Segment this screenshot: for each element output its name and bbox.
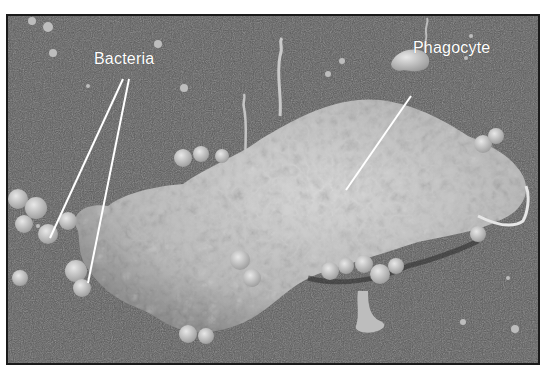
micrograph-frame: Bacteria Phagocyte — [6, 14, 540, 365]
bacteria-label: Bacteria — [94, 50, 154, 68]
phagocyte-label: Phagocyte — [413, 39, 490, 57]
micrograph-image — [8, 16, 538, 363]
